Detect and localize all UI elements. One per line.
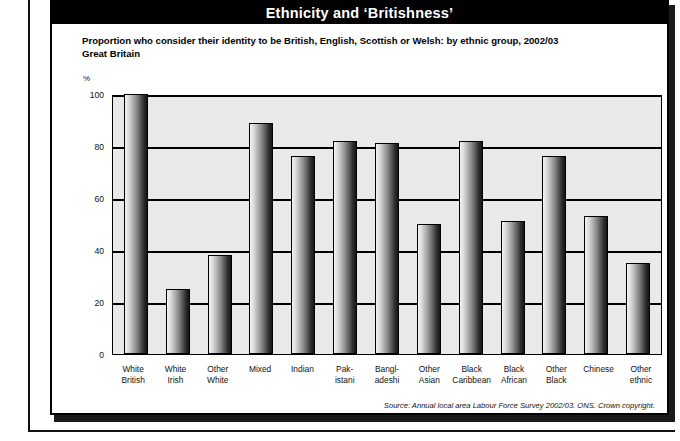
bar-11 (584, 216, 608, 354)
y-tick-label-80: 80 (62, 142, 104, 152)
x-label-3: Mixed (239, 364, 281, 385)
x-label-1: WhiteIrish (154, 364, 196, 385)
x-label-2: OtherWhite (197, 364, 239, 385)
x-label-line: Caribbean (451, 375, 493, 386)
x-label-8: BlackCaribbean (451, 364, 493, 385)
x-label-4: Indian (281, 364, 323, 385)
y-tick-label-20: 20 (62, 298, 104, 308)
plot-wrapper: 020406080100 (62, 95, 662, 357)
y-tick-label-40: 40 (62, 246, 104, 256)
x-label-7: OtherAsian (408, 364, 450, 385)
figure-title-bar: Ethnicity and ‘Britishness’ (52, 2, 667, 24)
x-axis-tick-labels: WhiteBritishWhiteIrishOtherWhiteMixed In… (112, 364, 662, 385)
x-label-line: Bangl- (366, 364, 408, 375)
x-label-line (239, 375, 281, 386)
bar-9 (501, 221, 525, 354)
x-label-line: Indian (281, 364, 323, 375)
bottom-margin-rule (28, 430, 675, 432)
bar-0 (124, 94, 148, 354)
bar-1 (166, 289, 190, 354)
bar-3 (249, 123, 273, 354)
x-label-line: White (154, 364, 196, 375)
x-label-line: istani (324, 375, 366, 386)
plot-area (112, 95, 662, 355)
x-label-line (577, 375, 619, 386)
figure-subtitle: Proportion who consider their identity t… (82, 34, 642, 60)
source-note: Source: Annual local area Labour Force S… (384, 401, 655, 410)
x-label-line: White (112, 364, 154, 375)
x-label-line: Chinese (577, 364, 619, 375)
y-tick-label-0: 0 (62, 350, 104, 360)
x-label-line: Black (451, 364, 493, 375)
x-label-line: White (197, 375, 239, 386)
x-label-11: Chinese (577, 364, 619, 385)
subtitle-line-2: Great Britain (82, 47, 642, 60)
x-label-line: Black (493, 364, 535, 375)
x-label-5: Pak-istani (324, 364, 366, 385)
bar-2 (208, 255, 232, 354)
x-label-10: OtherBlack (535, 364, 577, 385)
x-label-0: WhiteBritish (112, 364, 154, 385)
x-label-line: Asian (408, 375, 450, 386)
bar-10 (542, 156, 566, 354)
x-label-line: Other (408, 364, 450, 375)
subtitle-line-1: Proportion who consider their identity t… (82, 34, 642, 47)
y-tick-label-60: 60 (62, 194, 104, 204)
bar-6 (375, 143, 399, 354)
page-title: Ethnicity and ‘Britishness’ (266, 5, 454, 21)
x-label-9: BlackAfrican (493, 364, 535, 385)
bar-7 (417, 224, 441, 354)
x-label-line: British (112, 375, 154, 386)
x-label-line: African (493, 375, 535, 386)
x-label-line: Other (535, 364, 577, 375)
x-label-line (281, 375, 323, 386)
bar-series (113, 96, 661, 354)
x-label-line: Other (197, 364, 239, 375)
x-label-6: Bangl-adeshi (366, 364, 408, 385)
left-margin-rule (28, 0, 30, 432)
y-axis-unit-label: % (83, 74, 90, 83)
bar-5 (333, 141, 357, 354)
figure-panel: Ethnicity and ‘Britishness’ Proportion w… (50, 0, 669, 415)
x-label-line: Black (535, 375, 577, 386)
x-label-line: adeshi (366, 375, 408, 386)
bar-12 (626, 263, 650, 354)
x-label-line: Other (620, 364, 662, 375)
bar-8 (459, 141, 483, 354)
x-label-line: ethnic (620, 375, 662, 386)
x-label-12: Otherethnic (620, 364, 662, 385)
x-label-line: Irish (154, 375, 196, 386)
x-label-line: Pak- (324, 364, 366, 375)
x-label-line: Mixed (239, 364, 281, 375)
bar-4 (291, 156, 315, 354)
y-tick-label-100: 100 (62, 90, 104, 100)
